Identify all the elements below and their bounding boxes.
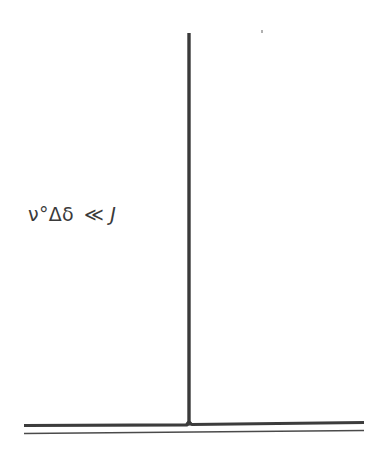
reference-axis-line bbox=[24, 431, 364, 434]
annotation-right: J bbox=[110, 203, 116, 225]
annotation-left: ν°Δδ bbox=[28, 203, 74, 225]
annotation-relation: ≪ bbox=[84, 203, 104, 225]
spectrum-plot bbox=[0, 0, 390, 468]
nmr-spectrum-figure: ν°Δδ≪J bbox=[0, 0, 390, 468]
condition-annotation: ν°Δδ≪J bbox=[28, 203, 116, 225]
spectrum-baseline bbox=[24, 423, 364, 426]
scan-noise-speck bbox=[261, 30, 263, 33]
